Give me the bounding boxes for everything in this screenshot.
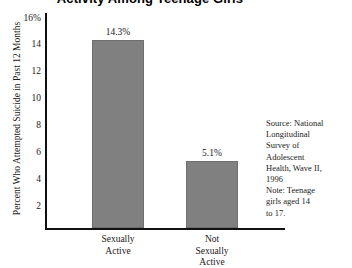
chart-canvas: Activity Among Teenage Girls Percent Who… (0, 0, 352, 268)
chart-title: Activity Among Teenage Girls (0, 0, 300, 6)
source-note: Source: National Longitudinal Survey of … (266, 118, 350, 219)
y-tick-label: 2 (6, 201, 41, 211)
y-tick-6: 6 (6, 147, 41, 157)
bar-sexually-active[interactable] (92, 40, 144, 228)
y-tick-label: 10 (6, 93, 41, 103)
y-tick-label: 6 (6, 147, 41, 157)
source-note-line: girls aged 14 (266, 196, 350, 207)
y-tick-label: 8 (6, 120, 41, 130)
source-note-line: Source: National (266, 118, 350, 129)
y-axis-line (45, 13, 47, 230)
x-category-line: Sexually (172, 246, 252, 258)
y-tick-4: 4 (6, 174, 41, 184)
x-category-label-0: Sexually Active (78, 234, 158, 257)
source-note-line: Note: Teenage (266, 185, 350, 196)
source-note-line: Survey of (266, 140, 350, 151)
y-tick-label: 4 (6, 174, 41, 184)
y-tick-12: 12 (6, 66, 41, 76)
x-axis-line (45, 228, 285, 230)
y-tick-8: 8 (6, 120, 41, 130)
y-tick-label: 16% (6, 13, 41, 23)
x-category-line: Not (172, 234, 252, 246)
x-category-label-1: Not Sexually Active (172, 234, 252, 268)
y-tick-10: 10 (6, 93, 41, 103)
bar-value-label: 14.3% (87, 27, 149, 38)
source-note-line: 1996 (266, 174, 350, 185)
source-note-line: to 17. (266, 208, 350, 219)
x-category-line: Active (78, 246, 158, 258)
x-category-line: Sexually (78, 234, 158, 246)
bar-value-label: 5.1% (181, 148, 243, 159)
source-note-line: Adolescent (266, 152, 350, 163)
y-tick-label: 12 (6, 66, 41, 76)
y-tick-2: 2 (6, 201, 41, 211)
x-category-line: Active (172, 257, 252, 268)
bar-not-sexually-active[interactable] (186, 161, 238, 228)
source-note-line: Longitudinal (266, 129, 350, 140)
y-tick-14: 14 (6, 39, 41, 49)
source-note-line: Health, Wave II, (266, 163, 350, 174)
y-tick-16: 16% (6, 13, 41, 23)
y-tick-label: 14 (6, 39, 41, 49)
